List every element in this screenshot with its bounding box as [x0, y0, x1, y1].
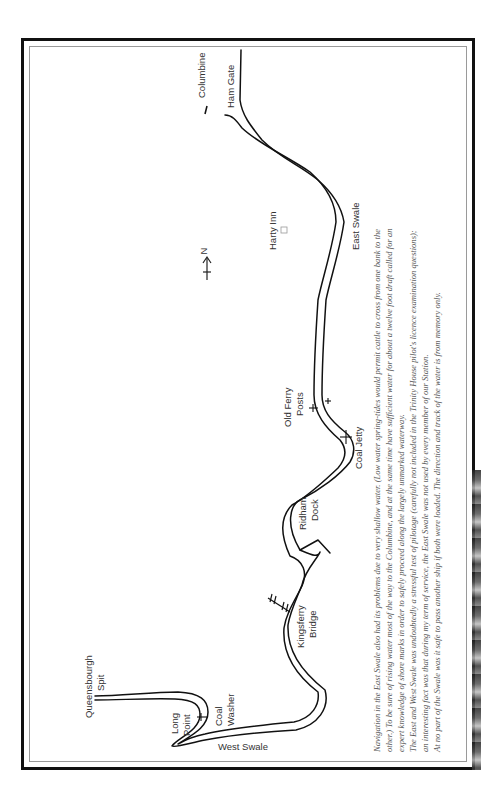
river-swale — [95, 50, 354, 746]
label-kingsferry-2: Bridge — [307, 611, 318, 638]
caption-line-5: an interesting fact was that during my t… — [420, 354, 430, 752]
label-east-swale: East Swale — [350, 202, 361, 250]
caption-line-4: The East and West Swale was undoubtedly … — [408, 230, 418, 752]
label-old-ferry-2: Posts — [294, 392, 305, 416]
harty-inn-icon — [281, 227, 287, 233]
caption-line-1: Navigation in the East Swale also had it… — [372, 229, 382, 753]
map-caption: Navigation in the East Swale also had it… — [372, 228, 442, 753]
label-coal-washer-1: Coal — [213, 706, 224, 726]
label-long-point-1: Long — [169, 713, 180, 734]
caption-line-6: At no part of the Swale was it safe to p… — [432, 292, 442, 753]
label-coal-washer-2: Washer — [225, 694, 236, 726]
north-label: N — [198, 247, 209, 254]
label-old-ferry-1: Old Ferry — [282, 387, 293, 427]
label-queensbourgh-2: Spit — [95, 674, 106, 691]
kingsferry-bridge-symbol — [268, 594, 290, 612]
label-kingsferry-1: Kingsferry — [295, 605, 306, 648]
label-long-point-2: Point — [181, 714, 192, 736]
caption-line-3: expert knowledge of shore marks in order… — [396, 414, 406, 752]
label-queensbourgh-1: Queensbourgh — [83, 655, 94, 718]
label-columbine: Columbine — [196, 53, 207, 98]
old-ferry-posts-marks — [309, 398, 331, 412]
label-coal-jetty: Coal Jetty — [353, 427, 364, 469]
caption-line-2: other.) To be sure of rising water most … — [384, 228, 394, 752]
label-west-swale: West Swale — [218, 741, 268, 752]
label-ham-gate: Ham Gate — [225, 65, 236, 108]
label-harty-inn: Harty Inn — [267, 211, 278, 250]
north-arrow-icon — [203, 257, 211, 280]
ridham-dock-channel — [300, 540, 330, 553]
label-ridham-1: Ridham — [297, 497, 308, 530]
label-ridham-2: Dock — [309, 499, 320, 521]
swale-map: N Columbine Ham Gate East Swale Harty In… — [0, 0, 481, 795]
columbine-mark — [205, 106, 207, 114]
